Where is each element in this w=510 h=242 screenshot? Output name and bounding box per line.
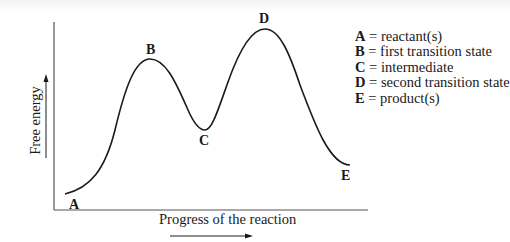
legend-item-c: C = intermediate bbox=[355, 60, 510, 75]
energy-curve bbox=[65, 29, 350, 194]
legend-text: first transition state bbox=[380, 43, 492, 59]
point-label-a: A bbox=[69, 198, 79, 212]
legend-text: second transition state bbox=[381, 74, 510, 90]
legend-item-b: B = first transition state bbox=[355, 44, 510, 59]
legend-item-a: A = reactant(s) bbox=[355, 29, 510, 44]
point-label-d: D bbox=[259, 12, 269, 26]
point-label-c: C bbox=[199, 134, 209, 148]
y-axis-label: Free energy bbox=[27, 76, 44, 166]
legend-text: product(s) bbox=[380, 90, 440, 106]
x-direction-arrow-icon bbox=[170, 234, 253, 239]
y-direction-arrow-icon bbox=[44, 74, 49, 158]
point-label-e: E bbox=[341, 169, 350, 183]
legend-sep: = bbox=[365, 43, 380, 59]
legend-sep: = bbox=[365, 59, 380, 75]
legend-sep: = bbox=[365, 90, 380, 106]
legend: A = reactant(s) B = first transition sta… bbox=[355, 29, 510, 106]
legend-sep: = bbox=[365, 74, 380, 90]
x-axis-label: Progress of the reaction bbox=[159, 211, 296, 228]
legend-key: E bbox=[355, 90, 365, 106]
legend-text: intermediate bbox=[381, 59, 453, 75]
legend-item-d: D = second transition state bbox=[355, 75, 510, 90]
legend-key: D bbox=[355, 74, 365, 90]
legend-text: reactant(s) bbox=[381, 28, 442, 44]
legend-sep: = bbox=[365, 28, 380, 44]
point-label-b: B bbox=[146, 43, 155, 57]
legend-key: B bbox=[355, 43, 365, 59]
legend-key: C bbox=[355, 59, 365, 75]
legend-item-e: E = product(s) bbox=[355, 91, 510, 106]
legend-key: A bbox=[355, 28, 365, 44]
